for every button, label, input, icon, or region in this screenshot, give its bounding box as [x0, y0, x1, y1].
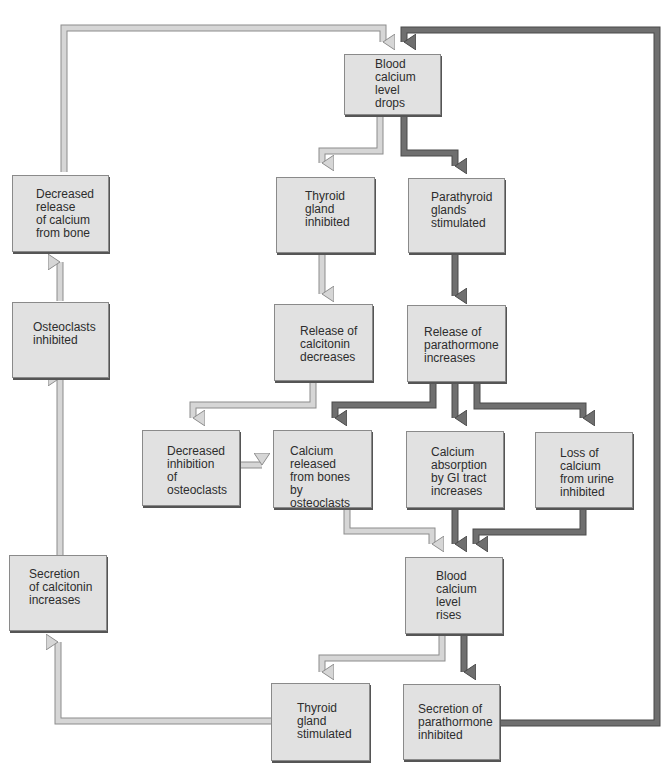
node-label: Blood calcium level rises — [436, 570, 492, 622]
arrow-urine-to-blood-rises — [476, 508, 583, 544]
arrow-blood-drops-to-thyroid-inhibited — [322, 114, 380, 163]
arrow-parathormone-to-calcium-released — [335, 381, 433, 418]
node-loss-calcium-urine: Loss of calcium from urine inhibited — [535, 432, 633, 508]
light-arrows — [58, 28, 442, 721]
node-thyroid-inhibited: Thyroid gland inhibited — [276, 177, 375, 253]
node-calcium-absorption-gi: Calcium absorption by GI tract increases — [406, 431, 504, 508]
node-label: Blood calcium level drops — [375, 58, 430, 110]
node-calcitonin-decreases: Release of calcitonin decreases — [274, 304, 373, 381]
arrow-parathormone-to-urine — [477, 381, 583, 418]
node-blood-calcium-rises: Blood calcium level rises — [405, 557, 503, 634]
node-label: Release of parathormone increases — [424, 326, 495, 365]
node-label: Secretion of parathormone inhibited — [418, 703, 489, 742]
arrow-calcium-released-to-blood-rises — [347, 508, 432, 544]
node-label: Release of calcitonin decreases — [300, 325, 362, 364]
node-label: Osteoclasts inhibited — [33, 321, 98, 347]
node-blood-calcium-drops: Blood calcium level drops — [344, 54, 441, 115]
node-calcitonin-secretion-increases: Secretion of calcitonin increases — [9, 555, 107, 631]
node-thyroid-stimulated: Thyroid gland stimulated — [271, 683, 370, 761]
node-parathyroid-stimulated: Parathyroid glands stimulated — [408, 178, 505, 253]
node-label: Thyroid gland inhibited — [305, 190, 364, 229]
node-label: Decreased release of calcium from bone — [36, 188, 98, 240]
node-label: Decreased inhibition of osteoclasts — [167, 445, 229, 497]
node-label: Secretion of calcitonin increases — [29, 568, 96, 607]
node-parathormone-inhibited: Secretion of parathormone inhibited — [403, 684, 500, 760]
node-osteoclasts-inhibited: Osteoclasts inhibited — [12, 302, 109, 378]
node-calcium-released-bones: Calcium released from bones by osteoclas… — [273, 430, 372, 508]
node-decreased-release-bone: Decreased release of calcium from bone — [12, 175, 109, 252]
arrow-calcitonin-to-decreased-inhibition — [193, 380, 313, 418]
node-label: Calcium released from bones by osteoclas… — [290, 445, 361, 510]
node-label: Thyroid gland stimulated — [297, 702, 359, 741]
node-label: Parathyroid glands stimulated — [431, 191, 494, 230]
node-parathormone-increases: Release of parathormone increases — [407, 305, 506, 382]
arrow-layer — [0, 0, 670, 771]
node-decreased-inhibition-osteoclasts: Decreased inhibition of osteoclasts — [142, 430, 240, 506]
arrow-blood-drops-to-parathyroid — [404, 114, 455, 166]
arrow-blood-rises-to-thyroid-stimulated — [322, 633, 442, 672]
arrow-thyroid-stimulated-to-calcitonin-secretion — [58, 642, 271, 721]
node-label: Loss of calcium from urine inhibited — [560, 447, 622, 499]
node-label: Calcium absorption by GI tract increases — [431, 446, 493, 498]
